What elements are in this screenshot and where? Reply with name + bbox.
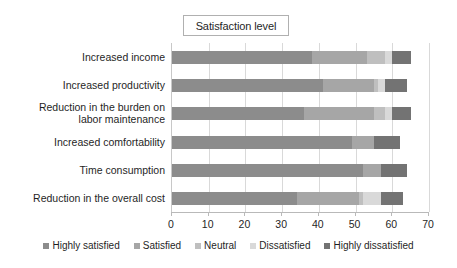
legend-label: Neutral (204, 240, 236, 251)
legend-item[interactable]: Neutral (195, 240, 236, 251)
legend-label: Dissatisfied (259, 240, 310, 251)
x-tick-label: 50 (349, 218, 361, 230)
bar-segment[interactable] (374, 107, 385, 120)
bar-row (172, 99, 429, 127)
bar-segment[interactable] (172, 51, 312, 64)
bar-segment[interactable] (363, 164, 381, 177)
x-tick (428, 212, 429, 216)
bar-segment[interactable] (385, 79, 407, 92)
bar-row (172, 71, 429, 99)
x-tick (281, 212, 282, 216)
x-tick (355, 212, 356, 216)
bar-segment[interactable] (378, 79, 385, 92)
x-tick-label: 60 (385, 218, 397, 230)
bar-segment[interactable] (172, 79, 323, 92)
x-tick-label: 10 (202, 218, 214, 230)
legend-label: Highly satisfied (52, 240, 119, 251)
legend-item[interactable]: Highly dissatisfied (324, 240, 413, 251)
x-tick-label: 40 (312, 218, 324, 230)
category-label: Time consumption (5, 164, 165, 176)
legend-item[interactable]: Dissatisfied (250, 240, 310, 251)
x-tick-label: 0 (168, 218, 174, 230)
x-tick (391, 212, 392, 216)
x-tick-label: 70 (422, 218, 434, 230)
x-tick (208, 212, 209, 216)
bar-segment[interactable] (367, 51, 385, 64)
bar-segment[interactable] (392, 107, 410, 120)
x-tick (318, 212, 319, 216)
stacked-bar[interactable] (172, 164, 407, 177)
x-axis: 010203040506070 (171, 212, 428, 213)
x-tick-label: 20 (239, 218, 251, 230)
bar-row (172, 184, 429, 212)
gridline (429, 43, 430, 212)
bar-segment[interactable] (385, 51, 392, 64)
legend-item[interactable]: Highly satisfied (43, 240, 119, 251)
bar-segment[interactable] (381, 192, 403, 205)
bar-segment[interactable] (352, 136, 374, 149)
legend-swatch-icon (134, 243, 140, 249)
x-tick (244, 212, 245, 216)
bar-segment[interactable] (374, 136, 400, 149)
category-label: Increased income (5, 51, 165, 63)
category-label: Reduction in the burden on labor mainten… (5, 101, 165, 125)
chart-title: Satisfaction level (183, 15, 289, 36)
x-tick (171, 212, 172, 216)
legend-swatch-icon (324, 243, 330, 249)
bar-segment[interactable] (381, 164, 407, 177)
legend-label: Highly dissatisfied (333, 240, 413, 251)
bar-segment[interactable] (323, 79, 374, 92)
bar-segment[interactable] (297, 192, 359, 205)
stacked-bar[interactable] (172, 136, 400, 149)
bar-segment[interactable] (172, 136, 352, 149)
stacked-bar[interactable] (172, 192, 403, 205)
legend-item[interactable]: Satisfied (134, 240, 181, 251)
bar-row (172, 43, 429, 71)
x-tick-label: 30 (275, 218, 287, 230)
chart-legend: Highly satisfiedSatisfiedNeutralDissatis… (0, 240, 457, 251)
bar-segment[interactable] (172, 164, 363, 177)
bar-row (172, 156, 429, 184)
stacked-bar[interactable] (172, 107, 411, 120)
satisfaction-level-chart: Satisfaction level 010203040506070 Highl… (0, 0, 457, 268)
plot-area (171, 43, 429, 212)
bar-row (172, 128, 429, 156)
bar-segment[interactable] (172, 107, 304, 120)
stacked-bar[interactable] (172, 79, 407, 92)
stacked-bar[interactable] (172, 51, 411, 64)
legend-swatch-icon (43, 243, 49, 249)
bar-segment[interactable] (312, 51, 367, 64)
bar-segment[interactable] (363, 192, 381, 205)
legend-label: Satisfied (143, 240, 181, 251)
legend-swatch-icon (195, 243, 201, 249)
bar-segment[interactable] (304, 107, 374, 120)
category-label: Reduction in the overall cost (5, 192, 165, 204)
legend-swatch-icon (250, 243, 256, 249)
bar-segment[interactable] (385, 107, 392, 120)
bar-segment[interactable] (172, 192, 297, 205)
bar-segment[interactable] (392, 51, 410, 64)
category-label: Increased comfortability (5, 136, 165, 148)
category-label: Increased productivity (5, 79, 165, 91)
